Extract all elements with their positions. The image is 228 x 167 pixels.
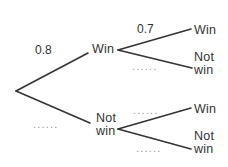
node-win-win: Win: [194, 24, 216, 37]
probability-tree-diagram: 0.8Win0.7Win......Not win......Not win..…: [0, 0, 228, 167]
dots-notwin-win: ......: [133, 105, 159, 116]
dots-root-notwin: ......: [33, 119, 59, 130]
dots-notwin-notwin: ......: [136, 143, 162, 154]
prob-root-win: 0.8: [35, 44, 52, 57]
node-win-level1: Win: [92, 43, 114, 56]
node-notwin-notwin: Not win: [194, 130, 222, 156]
node-notwin-win: Win: [194, 103, 216, 116]
branch-win-win: [118, 29, 191, 50]
node-win-notwin: Not win: [194, 51, 222, 77]
branch-root-win: [16, 53, 88, 91]
dots-win-notwin: ......: [132, 61, 158, 72]
node-notwin-level1: Not win: [96, 112, 124, 138]
prob-win-win: 0.7: [137, 23, 154, 36]
